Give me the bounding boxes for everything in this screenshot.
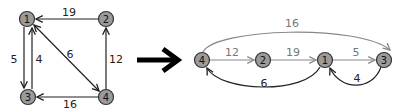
edge-weight: 19 [286, 46, 300, 59]
left-graph: 19 5 4 6 12 16 1 2 3 4 [11, 6, 124, 111]
edge-weight: 16 [63, 98, 77, 111]
edge-weight: 6 [67, 48, 74, 61]
edge-weight: 4 [36, 53, 43, 66]
svg-text:2: 2 [103, 14, 109, 25]
svg-text:1: 1 [24, 14, 30, 25]
edge-weight: 5 [11, 53, 18, 66]
graph-transformation-diagram: 19 5 4 6 12 16 1 2 3 4 [0, 0, 409, 112]
node-3: 3 [21, 90, 36, 105]
node-3: 3 [377, 53, 392, 68]
edge-weight: 16 [285, 17, 299, 30]
node-1: 1 [318, 53, 333, 68]
edge-weight: 12 [109, 53, 123, 66]
node-4: 4 [195, 53, 210, 68]
node-2: 2 [256, 53, 271, 68]
node-2: 2 [99, 12, 114, 27]
svg-text:1: 1 [322, 55, 328, 66]
edge-weight: 12 [225, 46, 239, 59]
edge-weight: 6 [261, 77, 268, 90]
right-arrow-icon [137, 49, 178, 71]
svg-text:4: 4 [103, 92, 109, 103]
svg-text:3: 3 [25, 92, 31, 103]
edge-weight: 5 [353, 46, 360, 59]
right-graph: 12 19 5 16 6 4 4 2 1 3 [195, 17, 392, 90]
node-4: 4 [99, 90, 114, 105]
svg-text:3: 3 [381, 55, 387, 66]
node-1: 1 [20, 12, 35, 27]
svg-text:4: 4 [199, 55, 205, 66]
svg-text:2: 2 [260, 55, 266, 66]
edge-weight: 19 [62, 6, 76, 19]
edge-weight: 4 [354, 72, 361, 85]
